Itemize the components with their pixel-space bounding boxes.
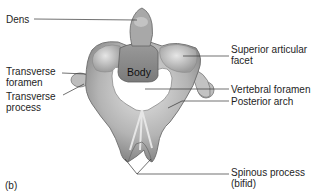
label-transverse-process-line2: process [6,102,41,113]
leader-spinous-b [137,159,151,174]
leader-transverse-process [63,84,84,95]
vertebra-bone [71,8,214,162]
leader-dens [34,19,137,20]
panel-label: (b) [5,180,17,191]
vertebra-diagram: Dens Transverse foramen Transverse proce… [0,0,314,195]
leader-spinous-a [125,159,137,174]
label-superior-articular-facet-line2: facet [231,55,253,66]
label-transverse-foramen-line2: foramen [6,77,43,88]
label-body: Body [127,67,151,78]
label-spinous-process-line1: Spinous process [231,167,305,178]
label-transverse-foramen-line1: Transverse [6,66,56,77]
label-vertebral-foramen: Vertebral foramen [231,84,311,95]
label-posterior-arch: Posterior arch [231,96,293,107]
label-spinous-process-line2: (bifid) [231,178,256,189]
label-transverse-process-line1: Transverse [6,91,56,102]
label-superior-articular-facet-line1: Superior articular [231,44,307,55]
label-dens: Dens [6,14,29,25]
